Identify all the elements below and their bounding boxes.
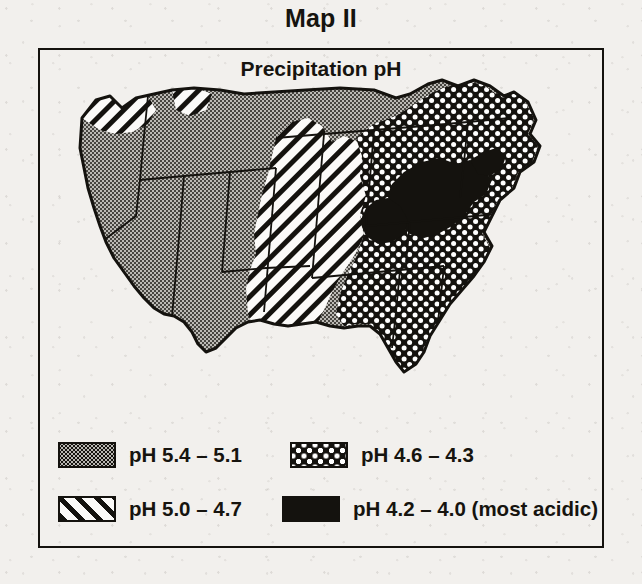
legend-entry-ph-5-0: pH 5.0 – 4.7 <box>58 496 282 522</box>
map-zones <box>44 76 598 406</box>
legend-entry-ph-5-4: pH 5.4 – 5.1 <box>58 442 290 468</box>
legend-swatch-diagonal-hatch <box>58 496 116 522</box>
legend-entry-ph-4-2: pH 4.2 – 4.0 (most acidic) <box>282 496 598 522</box>
legend-entry-ph-4-6: pH 4.6 – 4.3 <box>290 442 474 468</box>
page-title: Map II <box>0 4 642 33</box>
map-legend: pH 5.4 – 5.1 pH 4.6 – 4.3 pH 5.0 – 4.7 p… <box>58 428 598 536</box>
legend-label: pH 4.6 – 4.3 <box>361 443 474 467</box>
legend-swatch-fine-dot-stipple <box>58 442 116 468</box>
legend-row: pH 5.0 – 4.7 pH 4.2 – 4.0 (most acidic) <box>58 482 598 536</box>
legend-swatch-checkerboard <box>290 442 348 468</box>
zone-ph-5-0-southwest <box>104 314 170 358</box>
legend-row: pH 5.4 – 5.1 pH 4.6 – 4.3 <box>58 428 598 482</box>
legend-label: pH 5.0 – 4.7 <box>129 497 242 521</box>
legend-label: pH 5.4 – 5.1 <box>129 443 242 467</box>
legend-swatch-solid-black <box>282 496 340 522</box>
us-precipitation-ph-map <box>44 76 598 406</box>
legend-label: pH 4.2 – 4.0 (most acidic) <box>353 497 598 521</box>
